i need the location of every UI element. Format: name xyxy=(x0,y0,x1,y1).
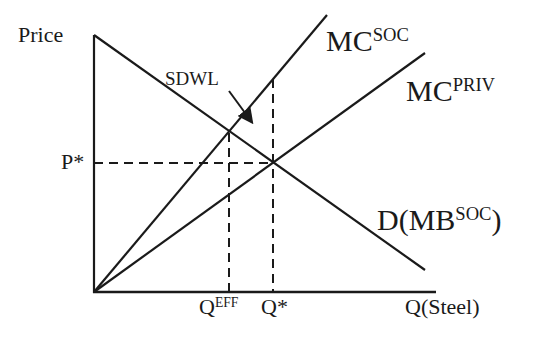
mc-social-label: MCSOC xyxy=(326,26,409,56)
sdwl-arrow xyxy=(229,91,251,121)
mc-social-curve xyxy=(94,15,327,292)
mc-private-curve xyxy=(94,53,425,292)
demand-prefix: D(MB xyxy=(377,203,455,236)
p-star-label: P* xyxy=(61,151,84,173)
demand-label: D(MBSOC) xyxy=(377,205,502,235)
q-eff-sup: EFF xyxy=(215,295,238,310)
mc-private-base: MC xyxy=(406,74,453,107)
demand-curve xyxy=(94,35,425,270)
mc-private-label: MCPRIV xyxy=(406,76,495,106)
q-eff-label: QEFF xyxy=(199,296,238,318)
q-star-label: Q* xyxy=(261,296,288,318)
externality-diagram: Price SDWL MCSOC MCPRIV P* D(MBSOC) QEFF… xyxy=(0,0,543,337)
q-eff-base: Q xyxy=(199,294,215,319)
demand-suffix: ) xyxy=(492,203,502,236)
mc-private-sup: PRIV xyxy=(453,74,495,95)
sdwl-label: SDWL xyxy=(165,69,219,88)
mc-social-base: MC xyxy=(326,24,373,57)
mc-social-sup: SOC xyxy=(373,24,409,45)
x-axis-label: Q(Steel) xyxy=(405,296,480,318)
y-axis-label: Price xyxy=(18,24,63,46)
demand-sup: SOC xyxy=(455,203,491,224)
